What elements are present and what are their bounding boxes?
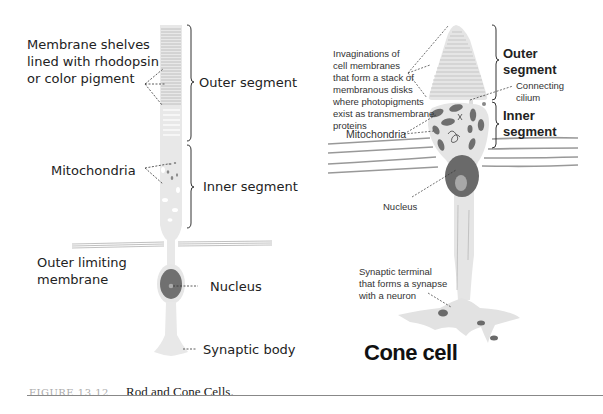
- label-line: Outer: [503, 46, 556, 62]
- rod-cell: [154, 25, 188, 356]
- cone-cell-title: Cone cell: [364, 340, 457, 366]
- label-line: cilium: [516, 92, 564, 104]
- label-line: where photopigments: [333, 96, 434, 108]
- label-line: that forms a synapse: [359, 278, 447, 290]
- label-line: cell membranes: [333, 60, 434, 72]
- label-line: segment: [503, 124, 556, 140]
- cone-label-synaptic-terminal: Synaptic terminal that forms a synapse w…: [359, 266, 447, 302]
- caption-divider: [27, 395, 603, 396]
- label-line: that form a stack of: [333, 72, 434, 84]
- rod-label-synaptic-body: Synaptic body: [203, 341, 296, 358]
- cone-label-outer-segment: Outer segment: [503, 46, 556, 78]
- cone-label-nucleus: Nucleus: [383, 201, 417, 213]
- cone-braces: [492, 25, 499, 148]
- rod-label-mitochondria: Mitochondria: [51, 162, 136, 179]
- cone-label-mitochondria: Mitochondria: [346, 128, 406, 140]
- rod-label-outer-limiting-membrane: Outer limiting membrane: [37, 254, 127, 288]
- label-line: Synaptic terminal: [359, 266, 447, 278]
- label-line: Membrane shelves: [27, 36, 159, 53]
- label-line: Connecting: [516, 80, 564, 92]
- cone-label-inner-segment: Inner segment: [503, 108, 556, 140]
- rod-label-outer-segment: Outer segment: [199, 74, 297, 91]
- rod-label-inner-segment: Inner segment: [203, 178, 298, 195]
- label-line: with a neuron: [359, 290, 447, 302]
- figure-number: FIGURE 13.12: [29, 387, 109, 398]
- figure-caption-text: Rod and Cone Cells.: [126, 384, 234, 399]
- label-line: Outer limiting: [37, 254, 127, 271]
- rod-label-nucleus: Nucleus: [210, 278, 262, 295]
- cone-label-invaginations: Invaginations of cell membranes that for…: [333, 48, 434, 132]
- label-line: lined with rhodopsin: [27, 53, 159, 70]
- label-line: or color pigment: [27, 70, 159, 87]
- label-line: exist as transmembrane: [333, 108, 434, 120]
- rod-braces: [187, 25, 194, 228]
- label-line: Invaginations of: [333, 48, 434, 60]
- cone-label-connecting-cilium: Connecting cilium: [516, 80, 564, 104]
- figure-caption: FIGURE 13.12 Rod and Cone Cells.: [29, 381, 234, 400]
- rod-label-membrane-shelves: Membrane shelves lined with rhodopsin or…: [27, 36, 159, 87]
- label-line: Inner: [503, 108, 556, 124]
- label-line: membranous disks: [333, 84, 434, 96]
- label-line: segment: [503, 62, 556, 78]
- label-line: membrane: [37, 271, 127, 288]
